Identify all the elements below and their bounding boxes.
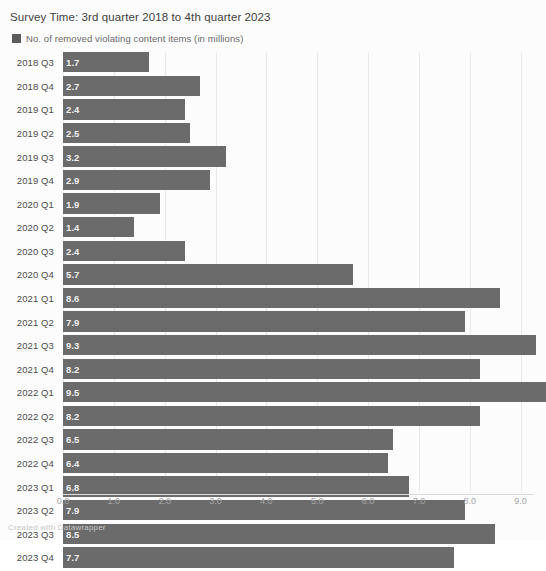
bar-track: 8.2	[63, 406, 540, 426]
chart-bar-row[interactable]: 2019 Q33.2	[6, 146, 540, 166]
chart-bar-row[interactable]: 2019 Q22.5	[6, 123, 540, 143]
bar-fill[interactable]: 6.4	[63, 453, 388, 473]
bar-category-label: 2019 Q1	[6, 104, 54, 115]
bar-category-label: 2022 Q4	[6, 458, 54, 469]
bar-category-label: 2019 Q3	[6, 151, 54, 162]
x-axis-tick-label: 6.0	[362, 496, 375, 506]
chart-bar-row[interactable]: 2022 Q46.4	[6, 453, 540, 473]
bar-fill[interactable]: 3.2	[63, 146, 226, 166]
bar-fill[interactable]: 1.9	[63, 193, 160, 213]
bar-fill[interactable]: 7.9	[63, 311, 465, 331]
bar-category-label: 2023 Q4	[6, 552, 54, 563]
bar-track: 8.6	[63, 288, 540, 308]
bar-track: 2.7	[63, 76, 540, 96]
bar-category-label: 2020 Q1	[6, 198, 54, 209]
bar-value-label: 8.2	[66, 410, 80, 421]
bar-track: 3.2	[63, 146, 540, 166]
chart-bar-row[interactable]: 2022 Q36.5	[6, 429, 540, 449]
bar-track: 8.2	[63, 359, 540, 379]
chart-bar-row[interactable]: 2020 Q21.4	[6, 217, 540, 237]
bar-fill[interactable]: 8.5	[63, 524, 495, 544]
bar-value-label: 6.8	[66, 481, 80, 492]
bar-value-label: 1.4	[66, 222, 80, 233]
chart-bar-row[interactable]: 2023 Q47.7	[6, 547, 540, 567]
x-axis-tick-label: 2.0	[158, 496, 171, 506]
chart-bar-row[interactable]: 2018 Q42.7	[6, 76, 540, 96]
chart-bar-row[interactable]: 2020 Q32.4	[6, 241, 540, 261]
bar-value-label: 6.4	[66, 458, 80, 469]
chart-bar-row[interactable]: 2021 Q48.2	[6, 359, 540, 379]
legend-label: No. of removed violating content items (…	[26, 33, 243, 44]
chart-bar-row[interactable]: 2020 Q11.9	[6, 193, 540, 213]
bar-fill[interactable]: 1.4	[63, 217, 134, 237]
bar-category-label: 2020 Q2	[6, 222, 54, 233]
x-axis-tick-label: 5.0	[311, 496, 324, 506]
bar-value-label: 2.5	[66, 127, 80, 138]
x-axis-tick-label: 9.0	[514, 496, 527, 506]
bar-track: 1.4	[63, 217, 540, 237]
bar-category-label: 2020 Q3	[6, 245, 54, 256]
bar-fill[interactable]: 7.7	[63, 547, 454, 567]
x-axis-line	[63, 494, 534, 495]
bar-category-label: 2021 Q1	[6, 292, 54, 303]
chart-bar-row[interactable]: 2022 Q19.5	[6, 382, 540, 402]
x-axis-tick-label: 1.0	[108, 496, 121, 506]
chart-bar-row[interactable]: 2020 Q45.7	[6, 264, 540, 284]
bar-fill[interactable]: 9.3	[63, 335, 536, 355]
bar-category-label: 2021 Q4	[6, 363, 54, 374]
bar-track: 1.9	[63, 193, 540, 213]
chart-bar-row[interactable]: 2019 Q12.4	[6, 99, 540, 119]
chart-bar-row[interactable]: 2021 Q39.3	[6, 335, 540, 355]
bar-fill[interactable]: 2.4	[63, 241, 185, 261]
bar-category-label: 2018 Q4	[6, 80, 54, 91]
page-title: Survey Time: 3rd quarter 2018 to 4th qua…	[10, 10, 540, 24]
bar-track: 8.5	[63, 524, 540, 544]
x-axis-tick-label: 7.0	[413, 496, 426, 506]
bar-value-label: 8.2	[66, 363, 80, 374]
bar-value-label: 1.9	[66, 198, 80, 209]
bar-category-label: 2020 Q4	[6, 269, 54, 280]
bar-category-label: 2018 Q3	[6, 57, 54, 68]
bar-category-label: 2022 Q3	[6, 434, 54, 445]
bar-fill[interactable]: 6.5	[63, 429, 393, 449]
bar-track: 2.4	[63, 99, 540, 119]
bar-category-label: 2019 Q2	[6, 127, 54, 138]
bar-fill[interactable]: 2.5	[63, 123, 190, 143]
bar-fill[interactable]: 8.6	[63, 288, 500, 308]
bar-fill[interactable]: 1.7	[63, 52, 149, 72]
bar-track: 7.7	[63, 547, 540, 567]
bar-fill[interactable]: 5.7	[63, 264, 353, 284]
chart-bar-row[interactable]: 2021 Q18.6	[6, 288, 540, 308]
bar-track: 5.7	[63, 264, 540, 284]
bar-fill[interactable]: 2.7	[63, 76, 200, 96]
bar-value-label: 9.5	[66, 387, 80, 398]
chart-bar-row[interactable]: 2018 Q31.7	[6, 52, 540, 72]
bar-track: 2.5	[63, 123, 540, 143]
bar-track: 9.3	[63, 335, 540, 355]
chart-bar-row[interactable]: 2021 Q27.9	[6, 311, 540, 331]
bar-track: 1.7	[63, 52, 540, 72]
bar-value-label: 2.4	[66, 104, 80, 115]
x-axis-tick-label: 4.0	[260, 496, 273, 506]
x-axis-tick-label: 3.0	[209, 496, 222, 506]
bar-track: 2.4	[63, 241, 540, 261]
bar-fill[interactable]: 8.2	[63, 406, 480, 426]
bar-fill[interactable]: 9.5	[63, 382, 546, 402]
legend-swatch-icon	[12, 34, 21, 43]
bar-value-label: 5.7	[66, 269, 80, 280]
x-axis-tick-label: 0.0	[57, 496, 70, 506]
bar-value-label: 1.7	[66, 57, 80, 68]
chart-bar-row[interactable]: 2019 Q42.9	[6, 170, 540, 190]
bar-fill[interactable]: 2.9	[63, 170, 210, 190]
chart-plot-area: 2018 Q31.72018 Q42.72019 Q12.42019 Q22.5…	[6, 52, 540, 492]
bar-category-label: 2022 Q1	[6, 387, 54, 398]
bar-fill[interactable]: 8.2	[63, 359, 480, 379]
bar-value-label: 6.5	[66, 434, 80, 445]
chart-bar-row[interactable]: 2022 Q28.2	[6, 406, 540, 426]
bar-value-label: 7.9	[66, 316, 80, 327]
bar-track: 6.4	[63, 453, 540, 473]
bar-value-label: 3.2	[66, 151, 80, 162]
bar-category-label: 2021 Q2	[6, 316, 54, 327]
bar-fill[interactable]: 2.4	[63, 99, 185, 119]
